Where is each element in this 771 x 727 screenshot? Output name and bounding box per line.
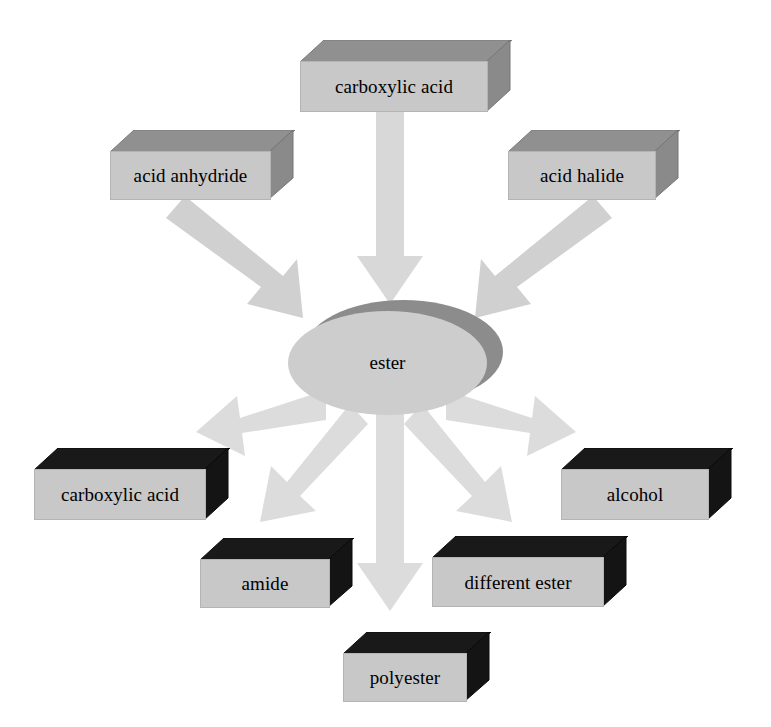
node-label: acid anhydride — [134, 166, 248, 185]
node-acid-halide[interactable]: acid halide — [508, 130, 680, 200]
box-front-face: carboxylic acid — [34, 469, 206, 520]
arrow-ester-to-polyester — [355, 410, 425, 615]
node-label: different ester — [464, 573, 571, 592]
box-side-face — [654, 130, 680, 200]
box-side-face — [328, 538, 354, 608]
box-front-face: acid anhydride — [110, 151, 271, 200]
node-label: amide — [242, 574, 289, 593]
box-top-face — [300, 40, 512, 62]
node-polyester[interactable]: polyester — [343, 632, 491, 702]
box-front-face: different ester — [432, 557, 604, 607]
box-side-face — [465, 632, 491, 702]
node-acid-anhydride[interactable]: acid anhydride — [110, 130, 295, 200]
node-carboxylic-acid-input[interactable]: carboxylic acid — [300, 40, 512, 113]
box-side-face — [707, 448, 733, 521]
arrow-carboxylic-acid-to-ester — [355, 108, 425, 308]
box-side-face — [204, 448, 230, 521]
box-front-face: alcohol — [561, 469, 709, 520]
node-label: alcohol — [607, 485, 664, 504]
node-ester-center[interactable]: ester — [288, 300, 503, 415]
box-front-face: carboxylic acid — [300, 61, 488, 112]
box-front-face: acid halide — [508, 151, 656, 200]
arrow-ester-to-amide — [258, 404, 368, 544]
box-top-face — [110, 130, 295, 152]
node-label: acid halide — [540, 166, 624, 185]
box-front-face: amide — [200, 559, 330, 608]
diagram-canvas: carboxylic acid acid anhydride acid hali… — [0, 0, 771, 727]
node-alcohol[interactable]: alcohol — [561, 448, 733, 521]
box-front-face: polyester — [343, 653, 467, 702]
ellipse-face: ester — [288, 311, 487, 415]
box-top-face — [432, 536, 628, 558]
node-carboxylic-acid-output[interactable]: carboxylic acid — [34, 448, 230, 521]
node-label: ester — [370, 352, 406, 374]
box-top-face — [34, 448, 230, 470]
box-side-face — [602, 536, 628, 608]
box-side-face — [486, 40, 512, 113]
arrow-ester-to-different-ester — [404, 404, 514, 544]
node-different-ester[interactable]: different ester — [432, 536, 628, 608]
node-amide[interactable]: amide — [200, 538, 354, 608]
box-side-face — [269, 130, 295, 200]
node-label: carboxylic acid — [61, 485, 179, 504]
node-label: polyester — [370, 668, 441, 687]
node-label: carboxylic acid — [335, 77, 453, 96]
